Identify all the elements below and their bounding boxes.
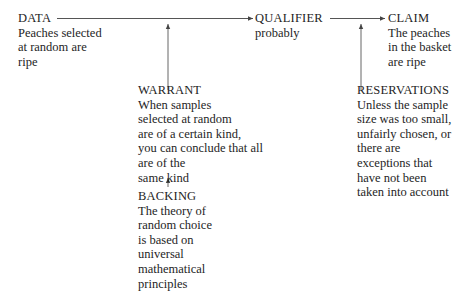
- backing-text-line: mathematical: [138, 262, 212, 277]
- qualifier-text-line: probably: [255, 26, 323, 41]
- qualifier-node: QUALIFIER probably: [255, 11, 323, 40]
- backing-title: BACKING: [138, 189, 212, 204]
- backing-text-line: random choice: [138, 218, 212, 233]
- warrant-text-line: selected at random: [138, 112, 263, 127]
- data-text-line: at random are: [18, 40, 102, 55]
- reservations-text-line: taken into account: [357, 185, 451, 200]
- claim-text-line: in the basket: [388, 40, 451, 55]
- warrant-node: WARRANT When samples selected at random …: [138, 83, 263, 185]
- reservations-node: RESERVATIONS Unless the sample size was …: [357, 83, 451, 200]
- warrant-text-line: same kind: [138, 171, 263, 186]
- reservations-text-line: exceptions that: [357, 156, 451, 171]
- backing-text-line: universal: [138, 247, 212, 262]
- data-text-line: ripe: [18, 55, 102, 70]
- warrant-text-line: are of a certain kind,: [138, 127, 263, 142]
- reservations-text-line: there are: [357, 141, 451, 156]
- data-node: DATA Peaches selected at random are ripe: [18, 11, 102, 69]
- reservations-text-line: Unless the sample: [357, 98, 451, 113]
- data-text-line: Peaches selected: [18, 26, 102, 41]
- warrant-text-line: you can conclude that all: [138, 141, 263, 156]
- warrant-text-line: are of the: [138, 156, 263, 171]
- warrant-title: WARRANT: [138, 83, 263, 98]
- reservations-text-line: size was too small,: [357, 112, 451, 127]
- claim-text-line: The peaches: [388, 26, 451, 41]
- claim-title: CLAIM: [388, 11, 451, 26]
- claim-node: CLAIM The peaches in the basket are ripe: [388, 11, 451, 69]
- reservations-text-line: have not been: [357, 171, 451, 186]
- qualifier-title: QUALIFIER: [255, 11, 323, 26]
- data-title: DATA: [18, 11, 102, 26]
- warrant-text-line: When samples: [138, 98, 263, 113]
- backing-node: BACKING The theory of random choice is b…: [138, 189, 212, 291]
- claim-text-line: are ripe: [388, 55, 451, 70]
- backing-text-line: is based on: [138, 233, 212, 248]
- backing-text-line: principles: [138, 277, 212, 292]
- backing-text-line: The theory of: [138, 204, 212, 219]
- reservations-title: RESERVATIONS: [357, 83, 451, 98]
- reservations-text-line: unfairly chosen, or: [357, 127, 451, 142]
